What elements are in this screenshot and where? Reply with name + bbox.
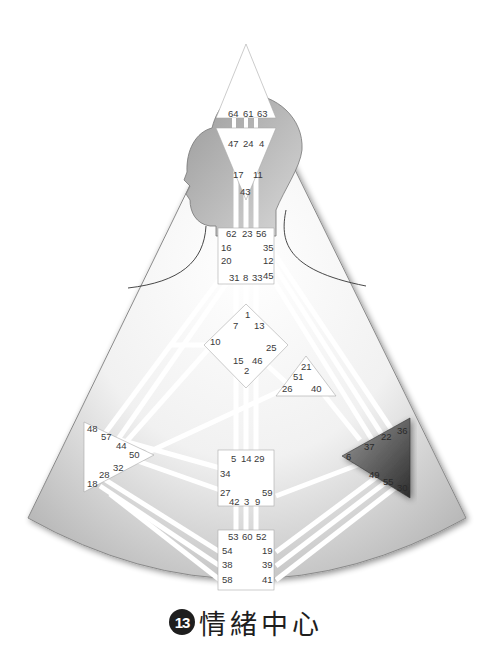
svg-text:3: 3 xyxy=(244,496,249,507)
svg-text:7: 7 xyxy=(233,320,238,331)
svg-text:45: 45 xyxy=(263,270,274,281)
svg-text:16: 16 xyxy=(221,242,232,253)
svg-text:36: 36 xyxy=(397,425,408,436)
svg-text:38: 38 xyxy=(222,559,233,570)
svg-text:37: 37 xyxy=(364,441,375,452)
head-center[interactable] xyxy=(216,44,276,118)
svg-text:33: 33 xyxy=(252,272,263,283)
svg-text:15: 15 xyxy=(233,355,244,366)
svg-text:30: 30 xyxy=(397,482,408,493)
svg-text:10: 10 xyxy=(210,336,221,347)
svg-text:51: 51 xyxy=(293,371,304,382)
svg-text:60: 60 xyxy=(242,531,253,542)
number-badge: 13 xyxy=(169,609,195,635)
svg-text:41: 41 xyxy=(262,574,273,585)
svg-text:50: 50 xyxy=(129,449,140,460)
svg-text:26: 26 xyxy=(282,383,293,394)
svg-text:31: 31 xyxy=(229,272,240,283)
svg-text:8: 8 xyxy=(243,272,248,283)
svg-text:53: 53 xyxy=(228,531,239,542)
svg-text:1: 1 xyxy=(245,309,250,320)
svg-text:20: 20 xyxy=(221,255,232,266)
svg-text:24: 24 xyxy=(243,138,254,149)
svg-text:63: 63 xyxy=(257,108,268,119)
svg-text:22: 22 xyxy=(381,431,392,442)
svg-text:61: 61 xyxy=(243,108,254,119)
svg-text:55: 55 xyxy=(383,476,394,487)
svg-text:52: 52 xyxy=(256,531,267,542)
svg-text:39: 39 xyxy=(262,559,273,570)
svg-text:57: 57 xyxy=(101,431,112,442)
svg-text:34: 34 xyxy=(220,468,231,479)
svg-text:62: 62 xyxy=(226,228,237,239)
svg-text:43: 43 xyxy=(240,186,251,197)
svg-text:48: 48 xyxy=(87,423,98,434)
svg-text:9: 9 xyxy=(255,496,260,507)
bodygraph-diagram: 64 61 63 47 24 4 17 11 43 62 23 56 16 35… xyxy=(0,0,492,650)
svg-text:11: 11 xyxy=(253,169,263,180)
head-gates: 64 61 63 xyxy=(228,108,268,119)
svg-text:23: 23 xyxy=(242,228,253,239)
svg-text:47: 47 xyxy=(228,138,239,149)
svg-text:29: 29 xyxy=(254,453,265,464)
svg-text:42: 42 xyxy=(229,496,240,507)
svg-text:58: 58 xyxy=(222,574,233,585)
svg-text:17: 17 xyxy=(233,169,244,180)
caption: 13 情緒中心 xyxy=(0,604,492,640)
svg-text:6: 6 xyxy=(346,451,351,462)
svg-text:32: 32 xyxy=(113,462,124,473)
svg-text:5: 5 xyxy=(231,453,236,464)
svg-text:18: 18 xyxy=(87,478,98,489)
svg-text:25: 25 xyxy=(266,342,277,353)
svg-text:28: 28 xyxy=(99,469,110,480)
svg-text:4: 4 xyxy=(259,138,264,149)
svg-text:49: 49 xyxy=(369,469,380,480)
svg-text:19: 19 xyxy=(262,545,273,556)
svg-text:2: 2 xyxy=(244,365,249,376)
svg-text:14: 14 xyxy=(241,453,252,464)
svg-text:56: 56 xyxy=(256,228,267,239)
svg-text:12: 12 xyxy=(263,255,274,266)
svg-text:46: 46 xyxy=(252,355,263,366)
svg-text:54: 54 xyxy=(222,545,233,556)
svg-text:64: 64 xyxy=(228,108,239,119)
svg-text:59: 59 xyxy=(262,487,273,498)
svg-text:13: 13 xyxy=(254,320,265,331)
svg-text:35: 35 xyxy=(263,242,274,253)
caption-title: 情緒中心 xyxy=(199,603,323,642)
svg-text:40: 40 xyxy=(311,383,322,394)
svg-text:44: 44 xyxy=(116,440,127,451)
